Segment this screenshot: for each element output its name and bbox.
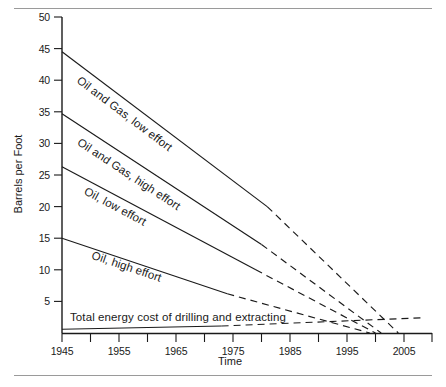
y-axis-title: Barrels per Foot	[12, 119, 24, 229]
y-tick-label-10: 10	[22, 264, 50, 276]
y-tick-label-35: 35	[22, 106, 50, 118]
x-tick-marks	[62, 333, 432, 342]
x-tick-label-1995: 1995	[327, 345, 367, 357]
x-tick-label-1955: 1955	[99, 345, 139, 357]
chart-page: 50 45 40 35 30 25 20 15 10 5 1945 1955 1…	[0, 0, 446, 387]
series-label-total-energy-cost: Total energy cost of drilling and extrac…	[70, 311, 286, 323]
x-axis-title: Time	[200, 355, 260, 367]
x-tick-label-1965: 1965	[156, 345, 196, 357]
y-tick-label-50: 50	[22, 11, 50, 23]
y-tick-label-30: 30	[22, 137, 50, 149]
y-tick-label-5: 5	[22, 295, 50, 307]
y-tick-label-25: 25	[22, 169, 50, 181]
x-tick-label-2005: 2005	[384, 345, 424, 357]
series-dash-oil-and-gas-low-effort	[267, 207, 398, 333]
x-tick-label-1985: 1985	[270, 345, 310, 357]
y-tick-label-15: 15	[22, 232, 50, 244]
y-tick-label-40: 40	[22, 74, 50, 86]
series-line-total-energy-cost	[62, 326, 222, 329]
x-tick-label-1945: 1945	[42, 345, 82, 357]
y-tick-label-20: 20	[22, 201, 50, 213]
y-tick-marks	[54, 17, 62, 301]
y-tick-label-45: 45	[22, 43, 50, 55]
chart-canvas	[0, 0, 446, 387]
